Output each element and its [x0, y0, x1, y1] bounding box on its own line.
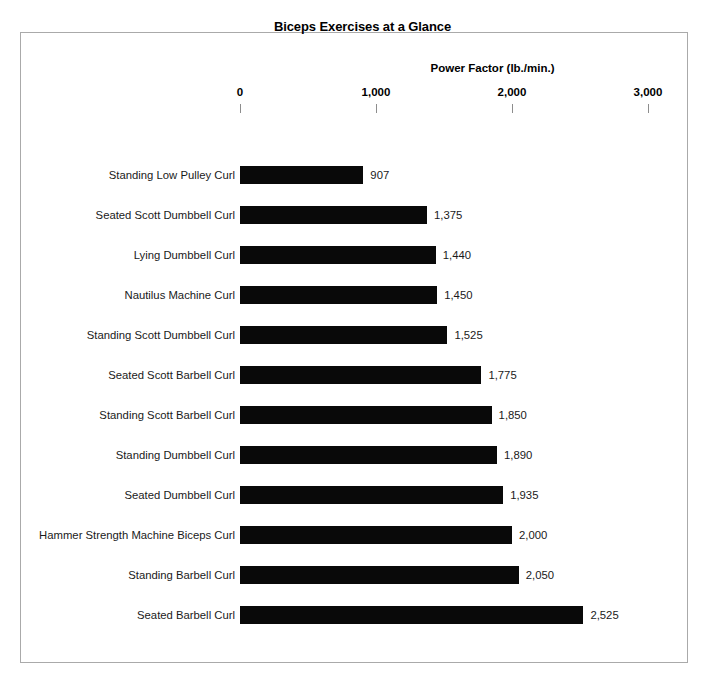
- bar-row: Seated Barbell Curl2,525: [0, 606, 702, 624]
- category-label: Seated Scott Dumbbell Curl: [20, 206, 235, 224]
- bar-value-label: 2,525: [590, 606, 618, 624]
- category-label: Standing Dumbbell Curl: [20, 446, 235, 464]
- bar-row: Standing Dumbbell Curl1,890: [0, 446, 702, 464]
- category-label: Standing Low Pulley Curl: [20, 166, 235, 184]
- category-label: Seated Dumbbell Curl: [20, 486, 235, 504]
- category-label: Hammer Strength Machine Biceps Curl: [20, 526, 235, 544]
- bar-row: Seated Scott Barbell Curl1,775: [0, 366, 702, 384]
- category-label: Nautilus Machine Curl: [20, 286, 235, 304]
- bar-row: Nautilus Machine Curl1,450: [0, 286, 702, 304]
- bar-row: Standing Barbell Curl2,050: [0, 566, 702, 584]
- bar-row: Standing Scott Barbell Curl1,850: [0, 406, 702, 424]
- bar-row: Hammer Strength Machine Biceps Curl2,000: [0, 526, 702, 544]
- bar: [240, 166, 363, 184]
- bar-row: Standing Low Pulley Curl907: [0, 166, 702, 184]
- bar-row: Seated Scott Dumbbell Curl1,375: [0, 206, 702, 224]
- bar: [240, 406, 492, 424]
- bar: [240, 486, 503, 504]
- bar-value-label: 2,000: [519, 526, 547, 544]
- bar-value-label: 1,440: [443, 246, 471, 264]
- bar: [240, 246, 436, 264]
- category-label: Standing Scott Barbell Curl: [20, 406, 235, 424]
- bar-value-label: 1,450: [444, 286, 472, 304]
- bar-value-label: 1,375: [434, 206, 462, 224]
- category-label: Lying Dumbbell Curl: [20, 246, 235, 264]
- bar-row: Seated Dumbbell Curl1,935: [0, 486, 702, 504]
- bar-row: Standing Scott Dumbbell Curl1,525: [0, 326, 702, 344]
- bar: [240, 446, 497, 464]
- bar-value-label: 1,935: [510, 486, 538, 504]
- bar: [240, 526, 512, 544]
- bar: [240, 326, 447, 344]
- bar: [240, 566, 519, 584]
- bar-value-label: 1,775: [488, 366, 516, 384]
- bar-row: Lying Dumbbell Curl1,440: [0, 246, 702, 264]
- category-label: Standing Barbell Curl: [20, 566, 235, 584]
- bar-value-label: 1,890: [504, 446, 532, 464]
- bar: [240, 366, 481, 384]
- bar-value-label: 2,050: [526, 566, 554, 584]
- bar: [240, 606, 583, 624]
- bar-value-label: 1,525: [454, 326, 482, 344]
- category-label: Standing Scott Dumbbell Curl: [20, 326, 235, 344]
- bar: [240, 206, 427, 224]
- bar-value-label: 1,850: [499, 406, 527, 424]
- bar-value-label: 907: [370, 166, 389, 184]
- category-label: Seated Barbell Curl: [20, 606, 235, 624]
- plot-area: Standing Low Pulley Curl907Seated Scott …: [0, 0, 702, 686]
- bar: [240, 286, 437, 304]
- category-label: Seated Scott Barbell Curl: [20, 366, 235, 384]
